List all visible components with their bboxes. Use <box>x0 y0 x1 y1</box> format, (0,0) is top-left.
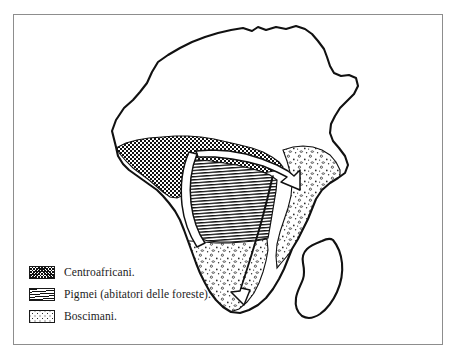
swatch-boscimani-icon <box>29 310 55 323</box>
legend-item-boscimani: Boscimani. <box>29 306 229 326</box>
legend-label-boscimani: Boscimani. <box>64 310 117 322</box>
legend-label-pigmei: Pigmei (abitatori delle foreste). <box>64 288 211 300</box>
legend: Centroafricani. Pigmei (abitatori delle … <box>29 262 229 328</box>
legend-label-centroafricani: Centroafricani. <box>64 266 135 278</box>
swatch-pigmei-icon <box>29 288 55 301</box>
swatch-centroafricani-icon <box>29 266 55 279</box>
legend-item-centroafricani: Centroafricani. <box>29 262 229 282</box>
legend-item-pigmei: Pigmei (abitatori delle foreste). <box>29 284 229 304</box>
madagascar-outline <box>296 239 343 318</box>
figure-page: Centroafricani. Pigmei (abitatori delle … <box>0 0 459 363</box>
